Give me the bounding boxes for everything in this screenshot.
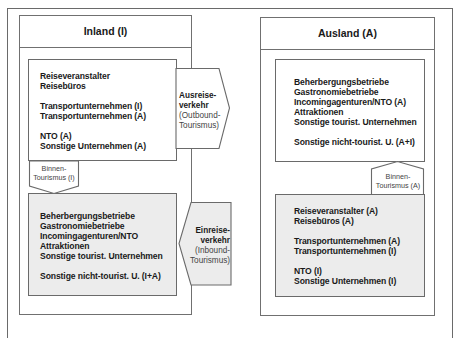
supplier-item: Beherbergungsbetriebe xyxy=(294,77,417,87)
supplier-item: Reiseveranstalter (A) xyxy=(294,206,400,216)
supplier-item: Transportunternehmen (I) xyxy=(294,246,400,256)
supplier-item: Incomingagenturen/NTO xyxy=(40,231,163,241)
ausland-domestic-tourism-label: Binnen- Tourismus (A) xyxy=(372,172,424,190)
supplier-item: Sonstige nicht-tourist. U. (A+I) xyxy=(294,137,417,147)
supplier-item: Sonstige nicht-tourist. U. (I+A) xyxy=(40,271,163,281)
inland-inbound-suppliers-list: BeherbergungsbetriebeGastronomiebetriebe… xyxy=(40,211,163,281)
ausland-title: Ausland (A) xyxy=(261,18,434,50)
spacer xyxy=(40,91,146,101)
supplier-item: Reisebüros xyxy=(40,81,146,91)
supplier-item: Sonstige Unternehmen (A) xyxy=(40,141,146,151)
supplier-item: Transportunternehmen (A) xyxy=(40,111,146,121)
spacer xyxy=(294,256,400,266)
spacer xyxy=(40,121,146,131)
ausland-sending-suppliers-box: Reiseveranstalter (A)Reisebüros (A)Trans… xyxy=(275,194,425,297)
supplier-item: Sonstige tourist. Unternehmen xyxy=(294,117,417,127)
ausland-receiving-suppliers-list: BeherbergungsbetriebeGastronomiebetriebe… xyxy=(294,77,417,147)
inland-title: Inland (I) xyxy=(20,16,191,48)
supplier-item: Reisebüros (A) xyxy=(294,216,400,226)
spacer xyxy=(40,261,163,271)
ausland-sending-suppliers-list: Reiseveranstalter (A)Reisebüros (A)Trans… xyxy=(294,206,400,286)
inland-outbound-suppliers-box: ReiseveranstalterReisebürosTransportunte… xyxy=(28,59,177,161)
supplier-item: Attraktionen xyxy=(40,241,163,251)
outbound-tourism-label: Ausreise- verkehr (Outbound- Tourismus) xyxy=(179,91,220,131)
supplier-item: Incomingagenturen/NTO (A) xyxy=(294,97,417,107)
supplier-item: Transportunternehmen (I) xyxy=(40,101,146,111)
supplier-item: Reiseveranstalter xyxy=(40,71,146,81)
supplier-item: Sonstige tourist. Unternehmen xyxy=(40,251,163,261)
inland-outbound-suppliers-list: ReiseveranstalterReisebürosTransportunte… xyxy=(40,71,146,151)
ausland-receiving-suppliers-box: BeherbergungsbetriebeGastronomiebetriebe… xyxy=(275,59,425,162)
supplier-item: Gastronomiebetriebe xyxy=(294,87,417,97)
inland-inbound-suppliers-box: BeherbergungsbetriebeGastronomiebetriebe… xyxy=(28,193,177,296)
supplier-item: NTO (I) xyxy=(294,266,400,276)
supplier-item: Gastronomiebetriebe xyxy=(40,221,163,231)
supplier-item: Sonstige Unternehmen (I) xyxy=(294,276,400,286)
supplier-item: Transportunternehmen (A) xyxy=(294,236,400,246)
supplier-item: Beherbergungsbetriebe xyxy=(40,211,163,221)
inbound-tourism-label: Einreise- verkehr (Inbound- Tourismus) xyxy=(190,226,230,266)
inland-domestic-tourism-label: Binnen- Tourismus (I) xyxy=(29,164,79,182)
spacer xyxy=(294,226,400,236)
spacer xyxy=(294,127,417,137)
supplier-item: Attraktionen xyxy=(294,107,417,117)
supplier-item: NTO (A) xyxy=(40,131,146,141)
